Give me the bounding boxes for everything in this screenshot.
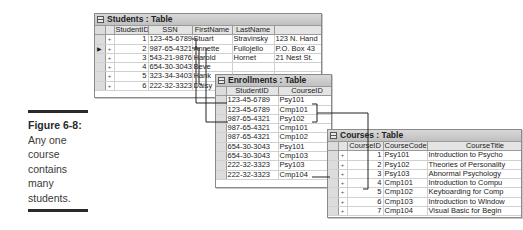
table-row[interactable]: +6Cmp103Introduction to Window — [328, 197, 522, 206]
row-selector[interactable] — [216, 133, 226, 142]
cell-lastname[interactable]: Fullojello — [232, 44, 274, 53]
row-selector[interactable] — [328, 197, 338, 206]
row-selector[interactable] — [95, 63, 105, 72]
students-title-bar[interactable]: Students : Table — [95, 14, 321, 26]
cell-coursecode[interactable]: Cmp101 — [383, 179, 427, 188]
table-row[interactable]: 654-30-3043Cmp103 — [216, 152, 332, 161]
cell-courseid[interactable]: 5 — [347, 188, 383, 197]
row-selector[interactable] — [216, 161, 226, 170]
cell-coursetitle[interactable]: Introduction to Compu — [427, 179, 522, 188]
table-row[interactable]: 222-32-3323Cmp104 — [216, 170, 332, 179]
cell-firstname[interactable]: Stuart — [192, 35, 232, 44]
cell-coursetitle[interactable]: Theories of Personality — [427, 160, 522, 169]
expand-icon[interactable]: + — [338, 151, 347, 160]
row-selector[interactable] — [216, 124, 226, 133]
table-row[interactable]: 654-30-3043Psy101 — [216, 142, 332, 151]
expand-icon[interactable]: + — [105, 44, 114, 53]
cell-courseid[interactable]: Cmp102 — [278, 133, 332, 142]
table-row[interactable]: + 4 654-30-3043 Beve — [95, 63, 322, 72]
cell-address1[interactable] — [274, 63, 322, 72]
row-selector[interactable] — [95, 81, 105, 90]
cell-courseid[interactable]: Psy101 — [278, 142, 332, 151]
row-selector[interactable] — [95, 53, 105, 62]
column-header-courseid[interactable]: CourseID — [278, 87, 332, 96]
row-selector[interactable] — [328, 169, 338, 178]
cell-firstname[interactable]: Annette — [192, 44, 232, 53]
cell-address1[interactable]: 21 Nest St. — [274, 53, 322, 62]
table-row[interactable]: 222-32-3323Psy103 — [216, 161, 332, 170]
cell-lastname[interactable]: Stravinsky — [232, 35, 274, 44]
cell-coursecode[interactable]: Psy102 — [383, 160, 427, 169]
cell-courseid[interactable]: Cmp104 — [278, 170, 332, 179]
expand-icon[interactable]: + — [105, 53, 114, 62]
column-header-studentid[interactable]: StudentID — [114, 26, 148, 35]
enrollments-table-window[interactable]: Enrollments : Table StudentID CourseID 1… — [215, 74, 332, 188]
cell-studentid[interactable]: 3 — [114, 53, 148, 62]
cell-ssn[interactable]: 654-30-3043 — [148, 63, 192, 72]
expand-icon[interactable]: + — [338, 197, 347, 206]
column-header-coursecode[interactable]: CourseCode — [383, 142, 427, 151]
row-selector[interactable] — [216, 114, 226, 123]
cell-studentid[interactable]: 2 — [114, 44, 148, 53]
cell-courseid[interactable]: Psy102 — [278, 114, 332, 123]
cell-address1[interactable]: P.O. Box 43 — [274, 44, 322, 53]
row-selector[interactable] — [216, 142, 226, 151]
expand-icon[interactable]: + — [338, 160, 347, 169]
row-selector[interactable] — [328, 179, 338, 188]
cell-ssn[interactable]: 222-32-3323 — [148, 81, 192, 90]
row-selector[interactable] — [328, 207, 338, 216]
cell-courseid[interactable]: 2 — [347, 160, 383, 169]
column-header-courseid[interactable]: CourseID — [347, 142, 383, 151]
table-row[interactable]: +7Cmp104Visual Basic for Begin — [328, 207, 522, 216]
cell-coursecode[interactable]: Cmp102 — [383, 188, 427, 197]
table-row[interactable]: 987-65-4321Cmp102 — [216, 133, 332, 142]
row-selector[interactable] — [216, 152, 226, 161]
cell-coursetitle[interactable]: Introduction to Psycho — [427, 151, 522, 160]
cell-ssn[interactable]: 123-45-6789 — [148, 35, 192, 44]
expand-icon[interactable]: + — [338, 169, 347, 178]
expand-icon[interactable]: + — [338, 188, 347, 197]
cell-courseid[interactable]: 1 — [347, 151, 383, 160]
cell-lastname[interactable] — [232, 63, 274, 72]
cell-ssn[interactable]: 543-21-9876 — [148, 53, 192, 62]
cell-courseid[interactable]: 4 — [347, 179, 383, 188]
column-header-lastname[interactable]: LastName — [232, 26, 274, 35]
cell-courseid[interactable]: 3 — [347, 169, 383, 178]
row-selector[interactable] — [216, 170, 226, 179]
expand-icon[interactable]: + — [105, 81, 114, 90]
table-row[interactable]: 123-45-6789Psy101 — [216, 96, 332, 105]
cell-studentid[interactable]: 654-30-3043 — [226, 152, 278, 161]
row-selector[interactable]: ▶ — [95, 44, 105, 53]
cell-coursetitle[interactable]: Visual Basic for Begin — [427, 207, 522, 216]
expand-icon[interactable]: + — [105, 63, 114, 72]
cell-studentid[interactable]: 1 — [114, 35, 148, 44]
corner-selector[interactable] — [95, 26, 105, 35]
row-selector[interactable] — [328, 188, 338, 197]
cell-studentid[interactable]: 222-32-3323 — [226, 170, 278, 179]
cell-courseid[interactable]: Cmp101 — [278, 124, 332, 133]
cell-coursetitle[interactable]: Abnormal Psychology — [427, 169, 522, 178]
courses-title-bar[interactable]: Courses : Table — [328, 130, 521, 142]
table-row[interactable]: +4Cmp101Introduction to Compu — [328, 179, 522, 188]
column-header-coursetitle[interactable]: CourseTitle — [427, 142, 522, 151]
cell-studentid[interactable]: 654-30-3043 — [226, 142, 278, 151]
courses-table-window[interactable]: Courses : Table CourseID CourseCode Cour… — [327, 129, 522, 218]
cell-coursetitle[interactable]: Keyboarding for Comp — [427, 188, 522, 197]
row-selector[interactable] — [328, 160, 338, 169]
cell-coursecode[interactable]: Cmp103 — [383, 197, 427, 206]
table-row[interactable]: 123-45-6789Cmp101 — [216, 105, 332, 114]
cell-firstname[interactable]: Harold — [192, 53, 232, 62]
cell-studentid[interactable]: 5 — [114, 72, 148, 81]
cell-studentid[interactable]: 987-65-4321 — [226, 133, 278, 142]
cell-studentid[interactable]: 4 — [114, 63, 148, 72]
cell-studentid[interactable]: 6 — [114, 81, 148, 90]
cell-studentid[interactable]: 987-65-4321 — [226, 124, 278, 133]
table-row[interactable]: +5Cmp102Keyboarding for Comp — [328, 188, 522, 197]
expand-icon[interactable]: + — [338, 179, 347, 188]
table-row[interactable]: +1Psy101Introduction to Psycho — [328, 151, 522, 160]
row-selector[interactable] — [216, 96, 226, 105]
cell-courseid[interactable]: Cmp101 — [278, 105, 332, 114]
cell-courseid[interactable]: Psy101 — [278, 96, 332, 105]
column-header-ssn[interactable]: SSN — [148, 26, 192, 35]
cell-courseid[interactable]: 7 — [347, 207, 383, 216]
